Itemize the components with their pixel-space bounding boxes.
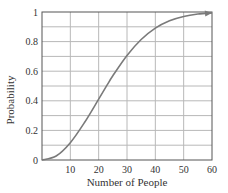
y-tick-label: 1 [33,7,38,18]
y-tick-label: 0.8 [26,36,39,47]
chart-canvas: 10203040506000.20.40.60.81 [0,0,228,193]
y-tick-label: 0.2 [26,125,39,136]
x-tick-label: 50 [179,164,189,175]
grid-lines [42,12,212,160]
x-tick-label: 30 [122,164,132,175]
x-tick-label: 60 [207,164,217,175]
x-axis-label: Number of People [42,176,212,188]
y-tick-label: 0.4 [26,95,39,106]
x-tick-label: 10 [65,164,75,175]
x-tick-label: 20 [94,164,104,175]
y-tick-label: 0 [33,155,38,166]
x-tick-label: 40 [150,164,160,175]
tick-labels: 10203040506000.20.40.60.81 [26,7,218,176]
y-axis-label: Probability [4,76,16,125]
y-tick-label: 0.6 [26,66,39,77]
